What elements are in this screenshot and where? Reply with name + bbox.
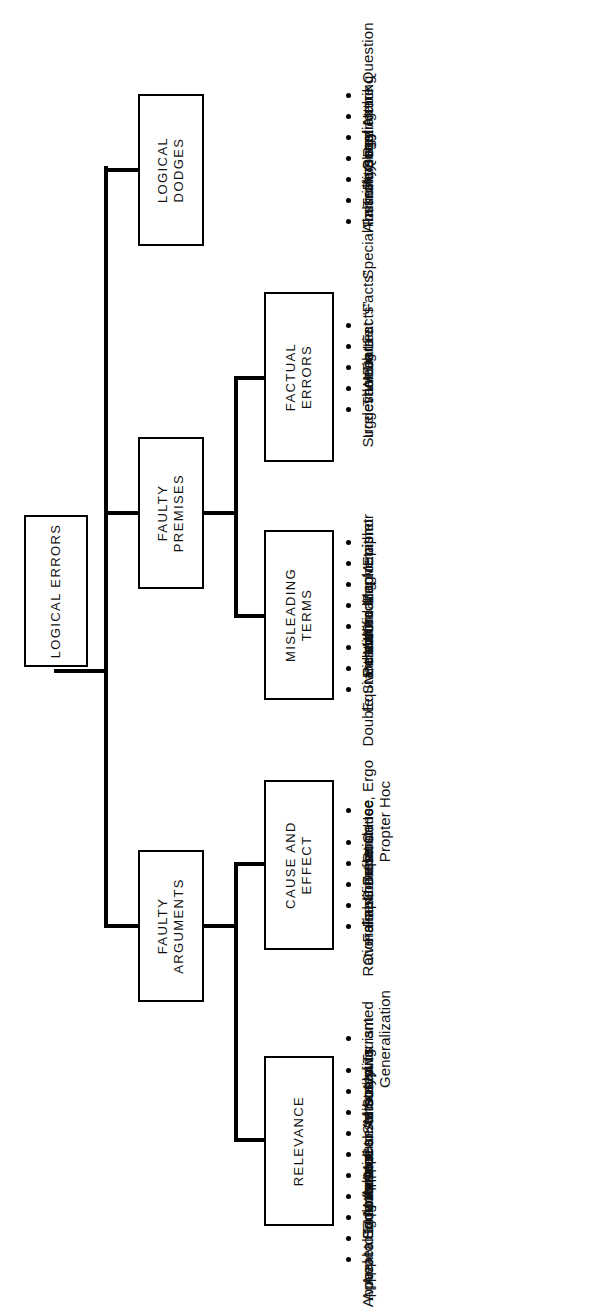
bullet-dot-icon [346,1152,351,1157]
node-faulty-arguments[interactable]: FAULTY ARGUMENTS [138,850,204,1002]
node-misleading-terms-label-line2: TERMS [299,568,315,662]
connector-root-stem [54,669,108,673]
node-relevance-label: RELEVANCE [291,1096,307,1186]
connector-fa-to-relevance [234,1138,266,1142]
bullet-dot-icon [346,603,351,608]
connector-branch-bus [104,166,108,852]
bullet-list-misleading-terms: EpithetEuphemismMisleading MetaphorWord … [346,532,375,700]
bullet-dot-icon [346,1089,351,1094]
node-cause-and-effect-label-line1: CAUSE AND [283,821,299,909]
node-logical-errors[interactable]: LOGICAL ERRORS [24,515,88,667]
list-item-label: Epithet [360,519,375,566]
bullet-dot-icon [346,1173,351,1178]
bullet-dot-icon [346,198,351,203]
list-item: Begging the Question [346,85,375,106]
bullet-dot-icon [346,540,351,545]
node-cause-and-effect[interactable]: CAUSE AND EFFECT [264,780,334,950]
bullet-dot-icon [346,1068,351,1073]
connector-fp-stem [204,511,238,515]
list-item: Incorrect “Facts” [346,315,375,336]
bullet-dot-icon [346,135,351,140]
connector-fa-stem [204,924,238,928]
bullet-dot-icon [346,924,351,929]
node-logical-dodges-label-line1: LOGICAL [155,137,171,203]
connector-bus-left-arm [104,848,108,928]
node-faulty-premises-label-line2: PREMISES [171,474,187,552]
bullet-dot-icon [346,840,351,845]
bullet-dot-icon [346,1194,351,1199]
node-logical-errors-label: LOGICAL ERRORS [48,524,64,659]
node-faulty-premises[interactable]: FAULTY PREMISES [138,437,204,589]
connector-to-faulty-arguments [104,924,142,928]
bullet-dot-icon [346,645,351,650]
bullet-dot-icon [346,561,351,566]
bullet-dot-icon [346,323,351,328]
bullet-dot-icon [346,386,351,391]
node-faulty-premises-label-line1: FAULTY [155,474,171,552]
list-item-label: Begging the Question [360,22,375,168]
list-item: Epithet [346,532,375,553]
bullet-dot-icon [346,582,351,587]
connector-to-faulty-premises [104,511,142,515]
connector-fa-bus [234,862,238,1142]
bullet-dot-icon [346,1131,351,1136]
bullet-dot-icon [346,177,351,182]
bullet-dot-icon [346,1215,351,1220]
node-factual-errors-label-line1: FACTUAL [283,343,299,411]
bullet-dot-icon [346,903,351,908]
connector-fp-to-factual [234,376,266,380]
connector-fa-to-cause [234,862,266,866]
bullet-dot-icon [346,809,351,814]
bullet-dot-icon [346,219,351,224]
list-item: UnwarrantedGeneralization [346,1018,393,1060]
bullet-list-cause-and-effect: Post Hoc, ErgoPropter HocFalse CauseFals… [346,790,393,937]
bullet-dot-icon [346,1236,351,1241]
list-item-label: UnwarrantedGeneralization [360,990,393,1088]
bullet-dot-icon [346,93,351,98]
connector-fp-bus [234,376,238,618]
list-item-label: Incorrect “Facts” [360,270,375,381]
bullet-dot-icon [346,114,351,119]
connector-to-logical-dodges [104,168,142,172]
bullet-dot-icon [346,624,351,629]
node-faulty-arguments-label-line2: ARGUMENTS [171,878,187,974]
bullet-list-factual-errors: Incorrect “Facts”Weak “Facts”The Big Lie… [346,315,375,420]
node-faulty-arguments-label-line1: FAULTY [155,878,171,974]
node-logical-dodges[interactable]: LOGICAL DODGES [138,94,204,246]
list-item-label: Post Hoc, ErgoPropter Hoc [360,760,393,862]
bullet-dot-icon [346,882,351,887]
node-misleading-terms-label-line1: MISLEADING [283,568,299,662]
bullet-dot-icon [346,407,351,412]
bullet-dot-icon [346,1110,351,1115]
bullet-dot-icon [346,365,351,370]
node-relevance[interactable]: RELEVANCE [264,1056,334,1226]
node-factual-errors-label-line2: ERRORS [299,343,315,411]
bullet-dot-icon [346,687,351,692]
bullet-list-logical-dodges: Begging the QuestionRed HerringPersonal … [346,85,375,232]
list-item: Post Hoc, ErgoPropter Hoc [346,790,393,832]
bullet-dot-icon [346,156,351,161]
bullet-dot-icon [346,344,351,349]
connector-fp-to-misleading [234,614,266,618]
bullet-dot-icon [346,1257,351,1262]
node-factual-errors[interactable]: FACTUAL ERRORS [264,292,334,462]
bullet-dot-icon [346,1037,351,1042]
node-logical-dodges-label-line2: DODGES [171,137,187,203]
node-misleading-terms[interactable]: MISLEADING TERMS [264,530,334,700]
node-cause-and-effect-label-line2: EFFECT [299,821,315,909]
bullet-list-relevance: UnwarrantedGeneralizationMisused TruismS… [346,1018,393,1270]
bullet-dot-icon [346,861,351,866]
bullet-dot-icon [346,666,351,671]
